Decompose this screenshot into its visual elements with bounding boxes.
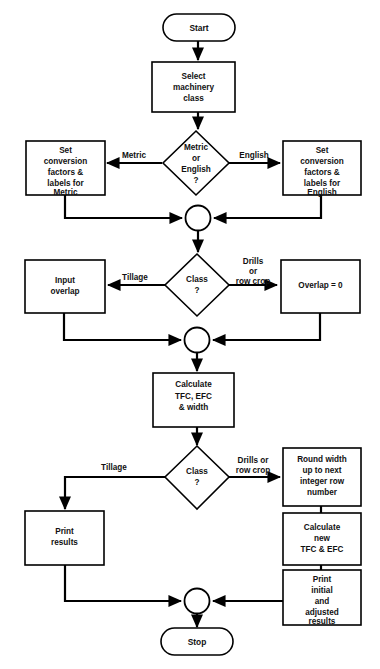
print-initial-line-5: results xyxy=(309,617,336,626)
set-english-line-1: Set xyxy=(316,146,329,155)
node-print-initial-adjusted[interactable]: Print initial and adjusted results xyxy=(283,570,361,626)
print-initial-line-2: initial xyxy=(311,586,332,595)
metric-english-line-2: or xyxy=(192,154,201,163)
calculate-new-line-1: Calculate xyxy=(304,523,341,532)
merge-2-circle-shape xyxy=(185,328,210,353)
calculate-tfc-line-2: TFC, EFC xyxy=(175,392,212,401)
round-width-line-1: Round width xyxy=(297,455,347,464)
print-initial-line-3: and xyxy=(315,597,330,606)
edge-set-metric-to-merge1 xyxy=(65,195,182,218)
node-set-conversion-metric[interactable]: Set conversion factors & labels for Metr… xyxy=(26,141,105,197)
edge-label-drills-1-line2: or xyxy=(249,267,258,276)
set-metric-line-5: Metric xyxy=(53,188,78,197)
node-print-results[interactable]: Print results xyxy=(25,511,104,565)
print-initial-line-1: Print xyxy=(313,575,332,584)
set-english-line-4: labels for xyxy=(304,179,341,188)
node-calculate-tfc-efc-width[interactable]: Calculate TFC, EFC & width xyxy=(153,373,234,427)
flowchart-canvas: Metric English Tillage Drills or row cro… xyxy=(0,0,380,669)
edge-label-metric: Metric xyxy=(122,151,147,160)
calculate-new-line-3: TFC & EFC xyxy=(301,545,344,554)
start-label: Start xyxy=(189,23,208,33)
round-width-line-3: integer row xyxy=(300,477,345,486)
stop-label: Stop xyxy=(188,637,207,647)
edge-label-tillage-1: Tillage xyxy=(122,273,148,282)
edge-label-drills-2-line1: Drills or xyxy=(238,456,270,465)
edge-label-drills-2-line2: row crop xyxy=(236,466,271,475)
metric-english-line-4: ? xyxy=(193,176,198,185)
edge-label-drills-1-line3: row crop xyxy=(236,277,271,286)
node-stop[interactable]: Stop xyxy=(161,628,233,655)
metric-english-line-3: English xyxy=(181,165,211,174)
set-metric-line-3: factors & xyxy=(48,168,84,177)
class-2-line-2: ? xyxy=(194,478,199,487)
class-2-line-1: Class xyxy=(186,467,208,476)
node-set-conversion-english[interactable]: Set conversion factors & labels for Engl… xyxy=(283,141,361,197)
print-initial-line-4: adjusted xyxy=(305,608,339,617)
merge-3-circle-shape xyxy=(185,589,210,614)
set-english-line-3: factors & xyxy=(304,168,340,177)
node-merge-connector-3[interactable] xyxy=(185,589,210,614)
round-width-line-4: number xyxy=(307,488,338,497)
edge-overlap-zero-to-merge2 xyxy=(213,313,320,340)
overlap-zero-line-1: Overlap = 0 xyxy=(298,281,343,290)
print-results-line-2: results xyxy=(51,538,78,547)
input-overlap-line-1: Input xyxy=(55,276,75,285)
node-overlap-zero[interactable]: Overlap = 0 xyxy=(281,260,360,313)
node-class-decision-2[interactable]: Class ? xyxy=(165,446,229,509)
round-width-line-2: up to next xyxy=(302,466,341,475)
calculate-new-line-2: new xyxy=(314,534,331,543)
print-results-line-1: Print xyxy=(55,527,74,536)
class-1-line-2: ? xyxy=(194,286,199,295)
input-overlap-line-2: overlap xyxy=(50,287,79,296)
merge-1-circle-shape xyxy=(186,206,211,231)
calculate-tfc-line-1: Calculate xyxy=(175,380,212,389)
node-input-overlap[interactable]: Input overlap xyxy=(25,260,105,313)
edge-print-results-to-merge3 xyxy=(65,565,181,601)
metric-english-line-1: Metric xyxy=(184,143,209,152)
edge-label-english: English xyxy=(239,151,269,160)
select-machinery-line-1: Select xyxy=(181,72,205,81)
select-machinery-line-3: class xyxy=(183,94,204,103)
class-1-line-1: Class xyxy=(186,275,208,284)
set-english-line-5: English xyxy=(307,188,337,197)
edge-class2-to-print-results xyxy=(65,477,165,509)
node-calculate-new-tfc-efc[interactable]: Calculate new TFC & EFC xyxy=(283,513,361,565)
node-class-decision-1[interactable]: Class ? xyxy=(165,254,229,316)
edge-set-english-to-merge1 xyxy=(214,195,321,218)
node-metric-or-english-decision[interactable]: Metric or English ? xyxy=(163,131,229,195)
node-round-width[interactable]: Round width up to next integer row numbe… xyxy=(283,448,361,506)
select-machinery-line-2: machinery xyxy=(173,83,214,92)
flowchart-svg: Metric English Tillage Drills or row cro… xyxy=(0,0,380,669)
node-start[interactable]: Start xyxy=(163,14,235,41)
node-merge-connector-1[interactable] xyxy=(186,206,211,231)
edge-input-overlap-to-merge2 xyxy=(64,313,181,340)
edge-label-tillage-2: Tillage xyxy=(101,463,127,472)
calculate-tfc-line-3: & width xyxy=(179,403,209,412)
node-select-machinery-class[interactable]: Select machinery class xyxy=(152,62,235,112)
set-english-line-2: conversion xyxy=(300,157,344,166)
set-metric-line-2: conversion xyxy=(44,157,88,166)
node-merge-connector-2[interactable] xyxy=(185,328,210,353)
class-1-diamond-shape xyxy=(165,254,229,316)
edge-label-drills-1-line1: Drills xyxy=(243,257,264,266)
set-metric-line-1: Set xyxy=(59,146,72,155)
set-metric-line-4: labels for xyxy=(47,179,84,188)
